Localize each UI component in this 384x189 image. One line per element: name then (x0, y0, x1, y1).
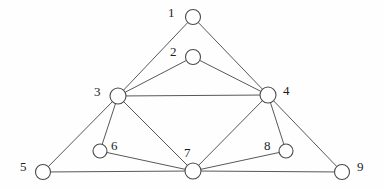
graph-node-4[interactable] (260, 87, 276, 103)
graph-node-label-8: 8 (264, 139, 271, 152)
graph-figure: 123456789 (0, 0, 384, 189)
nodes-layer (36, 10, 350, 180)
graph-edge-4-7 (199, 101, 263, 166)
graph-node-6[interactable] (93, 144, 107, 158)
graph-node-label-4: 4 (283, 84, 290, 97)
graph-node-3[interactable] (110, 88, 126, 104)
edges-layer (48, 22, 337, 172)
graph-node-label-3: 3 (94, 85, 101, 98)
graph-node-1[interactable] (186, 10, 201, 25)
graph-node-2[interactable] (186, 50, 201, 65)
graph-node-label-7: 7 (184, 146, 191, 159)
graph-node-8[interactable] (279, 144, 293, 158)
graph-edge-6-7 (107, 152, 185, 169)
graph-node-label-9: 9 (357, 160, 364, 173)
graph-edge-1-4 (198, 22, 262, 89)
graph-canvas (0, 0, 384, 189)
graph-node-5[interactable] (36, 165, 51, 180)
graph-node-label-2: 2 (170, 45, 177, 58)
graph-edge-2-3 (125, 60, 186, 92)
graph-node-label-6: 6 (111, 139, 118, 152)
graph-edge-3-7 (124, 102, 188, 166)
graph-edge-5-7 (51, 171, 186, 172)
graph-edge-7-9 (201, 171, 335, 172)
graph-edge-1-3 (124, 22, 188, 90)
graph-node-label-5: 5 (20, 160, 27, 173)
graph-node-9[interactable] (335, 165, 350, 180)
graph-node-label-1: 1 (168, 6, 175, 19)
graph-edge-7-8 (201, 152, 279, 169)
graph-edge-3-4 (126, 95, 260, 96)
graph-node-7[interactable] (185, 163, 201, 179)
graph-edge-2-4 (200, 60, 261, 91)
